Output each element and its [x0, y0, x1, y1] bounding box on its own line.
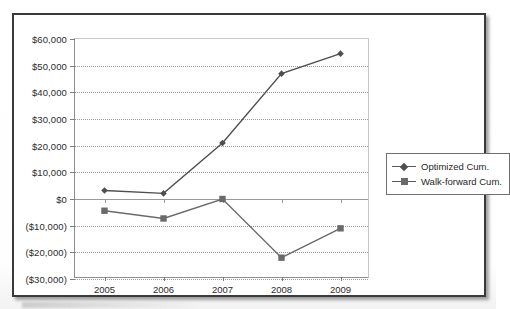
data-point-square[interactable] [278, 254, 284, 260]
x-axis-tick-label: 2006 [153, 284, 174, 295]
x-axis-tick-label: 2009 [330, 284, 351, 295]
y-axis-tick-label: $60,000 [32, 34, 67, 45]
data-point-square[interactable] [219, 196, 225, 202]
y-axis-tick-label: $10,000 [32, 167, 67, 178]
y-axis-tick-label: ($30,000) [25, 274, 67, 285]
square-marker-icon [392, 176, 416, 187]
y-axis-tick-label: $40,000 [32, 87, 67, 98]
y-axis-tick-label: ($20,000) [25, 247, 67, 258]
legend-label-walk-forward-cum: Walk-forward Cum. [421, 176, 502, 187]
data-point-square[interactable] [101, 208, 107, 214]
y-axis-tick-label: $20,000 [32, 140, 67, 151]
cut-off-caption [22, 302, 202, 308]
y-axis-tick-label: $50,000 [32, 60, 67, 71]
data-point-diamond[interactable] [101, 187, 108, 194]
y-axis-tick-label: $0 [56, 194, 67, 205]
y-axis-tick-label: ($10,000) [25, 220, 67, 231]
series-walk-forward-cum [101, 196, 343, 261]
legend-item-optimized-cum[interactable]: Optimized Cum. [392, 159, 502, 174]
legend-label-optimized-cum: Optimized Cum. [421, 161, 489, 172]
figure-frame: $60,000$50,000$40,000$30,000$20,000$10,0… [12, 13, 486, 297]
series-line [105, 54, 341, 194]
y-axis-tick-label: $30,000 [32, 114, 67, 125]
x-axis-tick-label: 2007 [212, 284, 233, 295]
y-axis-tick [70, 279, 75, 280]
data-point-square[interactable] [337, 225, 343, 231]
diamond-marker-icon [392, 161, 416, 172]
data-point-diamond[interactable] [337, 50, 344, 57]
x-axis-tick-label: 2008 [271, 284, 292, 295]
series-layer [75, 39, 370, 279]
series-line [105, 199, 341, 258]
gridline [75, 279, 368, 280]
x-axis-tick-label: 2005 [94, 284, 115, 295]
series-optimized-cum [101, 50, 344, 196]
legend-item-walk-forward-cum[interactable]: Walk-forward Cum. [392, 174, 502, 189]
chart-legend: Optimized Cum. Walk-forward Cum. [386, 153, 510, 195]
data-point-square[interactable] [160, 215, 166, 221]
chart-plot-area: $60,000$50,000$40,000$30,000$20,000$10,0… [74, 38, 369, 278]
